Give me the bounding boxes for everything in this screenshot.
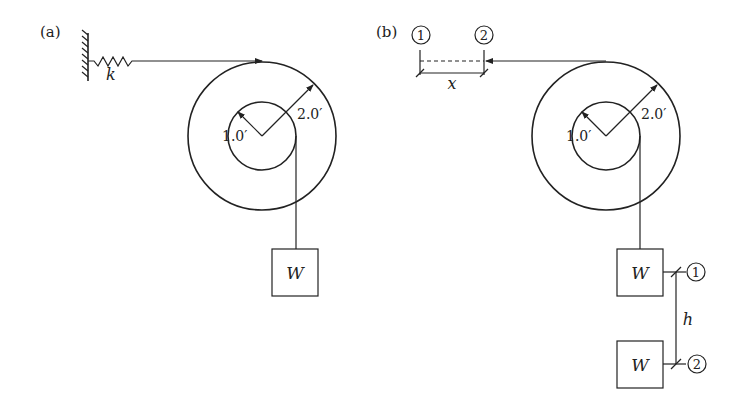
panel-a-label: (a): [40, 23, 61, 41]
position-2-label: 2: [480, 28, 488, 43]
outer-radius-label-b: 2.0′: [641, 106, 666, 122]
panel-a: (a) k 1.0′ 2.0′ W: [40, 23, 336, 296]
inner-radius-label: 1.0′: [222, 128, 247, 144]
panel-b-label: (b): [376, 23, 397, 41]
panel-b: (b) 1 2 x 1.0′ 2.0′ W W h: [376, 23, 706, 388]
outer-radius-label: 2.0′: [297, 106, 322, 122]
spring-constant-label: k: [106, 65, 116, 84]
fixed-wall-icon: [82, 30, 88, 81]
position-1-label: 1: [417, 28, 425, 43]
diagram-canvas: (a) k 1.0′ 2.0′ W (b): [0, 0, 749, 403]
weight-label: W: [286, 263, 305, 283]
displacement-label: x: [447, 74, 456, 93]
weight-label-bottom: W: [631, 355, 650, 375]
height-position-1-label: 1: [692, 265, 700, 280]
height-label: h: [683, 310, 693, 329]
weight-label-top: W: [631, 263, 650, 283]
height-position-2-label: 2: [693, 357, 701, 372]
inner-radius-label-b: 1.0′: [566, 128, 591, 144]
